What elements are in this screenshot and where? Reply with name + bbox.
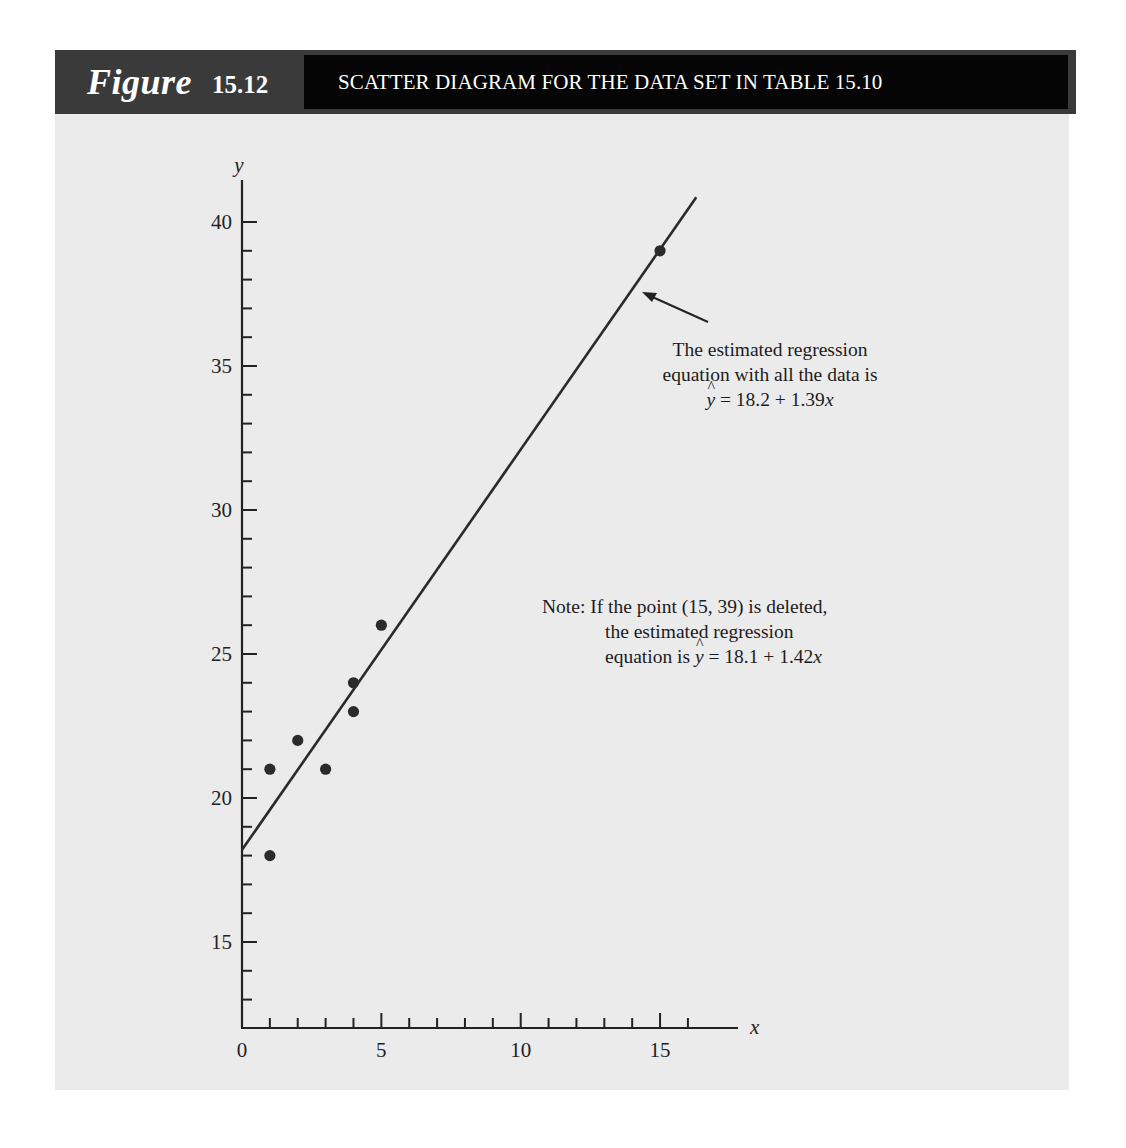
y-tick-label: 25 <box>211 642 232 666</box>
y-tick-label: 15 <box>211 930 232 954</box>
full-fit-line1: The estimated regression <box>620 337 920 362</box>
note-prefix: Note: <box>542 596 585 617</box>
data-point <box>348 706 359 717</box>
regression-line-path <box>242 197 696 850</box>
x-tick-label: 10 <box>510 1038 531 1062</box>
y-hat-symbol: y <box>695 644 704 669</box>
full-fit-equation: y = 18.2 + 1.39x <box>620 387 920 412</box>
note-line3-prefix: equation is <box>605 646 690 667</box>
note-eq-rhs: = 18.1 + 1.42 <box>708 646 813 667</box>
data-points <box>264 245 665 861</box>
note-eq-var: x <box>813 646 822 667</box>
note-line1: If the point (15, 39) is deleted, <box>590 596 827 617</box>
note-line3: equation is y = 18.1 + 1.42x <box>542 644 902 669</box>
data-point <box>348 677 359 688</box>
annotation-arrow <box>642 292 708 322</box>
data-point <box>292 735 303 746</box>
data-point <box>320 764 331 775</box>
data-point <box>376 620 387 631</box>
x-axis-label: x <box>749 1015 760 1039</box>
x-tick-label: 15 <box>650 1038 671 1062</box>
full-fit-line2: equation with all the data is <box>620 362 920 387</box>
full-fit-eq-rhs: = 18.2 + 1.39 <box>720 389 825 410</box>
full-fit-annotation: The estimated regression equation with a… <box>620 337 920 412</box>
full-fit-eq-var: x <box>825 389 834 410</box>
x-tick-label: 0 <box>237 1038 248 1062</box>
y-tick-label: 20 <box>211 786 232 810</box>
note-line2: the estimated regression <box>542 619 902 644</box>
y-tick-label: 40 <box>211 210 232 234</box>
data-point <box>264 850 275 861</box>
scatter-chart: 152025303540051015xy <box>0 0 1126 1148</box>
y-axis-label: y <box>232 153 244 177</box>
deleted-point-note: Note: If the point (15, 39) is deleted, … <box>542 594 902 669</box>
y-hat-symbol: y <box>706 387 715 412</box>
regression-line <box>242 197 696 850</box>
data-point <box>654 245 665 256</box>
y-tick-label: 35 <box>211 354 232 378</box>
x-tick-label: 5 <box>376 1038 387 1062</box>
data-point <box>264 764 275 775</box>
y-tick-label: 30 <box>211 498 232 522</box>
